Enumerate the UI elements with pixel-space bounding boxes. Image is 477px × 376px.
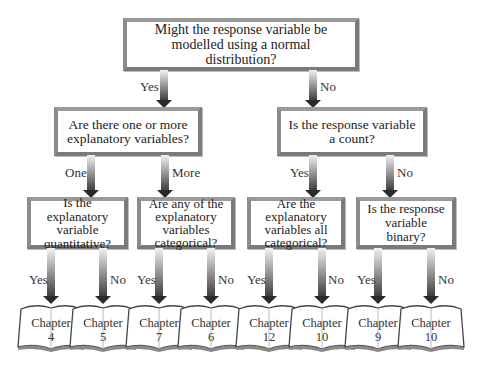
question-box-all-categorical: Are the explanatory variables all catego… (247, 197, 345, 249)
arrow-l3-0-no (99, 248, 107, 304)
root-question-box: Might the response variable be modelled … (123, 18, 359, 71)
arrow-root-no (309, 70, 317, 108)
root-question-text: Might the response variable be modelled … (145, 22, 337, 67)
question-text: Is the response variable a count? (285, 118, 419, 146)
label-l3-3-no: No (438, 273, 454, 287)
question-box-response-binary: Is the response variable binary? (356, 197, 456, 249)
arrow-one (87, 155, 95, 198)
label-count-no: No (397, 166, 413, 180)
arrow-l3-1-yes (155, 248, 163, 304)
arrow-l3-3-no (427, 248, 435, 304)
question-text: Is the explanatory variable quantitative… (35, 196, 120, 250)
chapter-book-10-b: Chapter10 (397, 303, 465, 353)
arrow-count-no (386, 155, 394, 198)
arrow-l3-0-yes (47, 248, 55, 304)
label-one: One (65, 166, 87, 180)
label-count-yes: Yes (290, 166, 309, 180)
label-l3-2-no: No (328, 273, 344, 287)
label-root-yes: Yes (140, 80, 159, 94)
arrow-l3-2-no (318, 248, 326, 304)
question-box-explanatory-quantitative: Is the explanatory variable quantitative… (27, 197, 128, 249)
question-text: Are there one or more explanatory variab… (62, 118, 194, 146)
question-box-response-count: Is the response variable a count? (277, 107, 427, 156)
arrow-more (161, 155, 169, 198)
question-text: Are the explanatory variables all catego… (255, 197, 337, 249)
label-l3-1-yes: Yes (137, 273, 156, 287)
label-l3-3-yes: Yes (357, 273, 376, 287)
question-text: Is the response variable binary? (364, 202, 448, 244)
question-box-any-categorical: Are any of the explanatory variables cat… (137, 197, 235, 249)
question-box-explanatory-count: Are there one or more explanatory variab… (54, 107, 202, 156)
question-text: Are any of the explanatory variables cat… (145, 197, 227, 249)
chapter-label: Chapter (397, 316, 465, 330)
label-root-no: No (320, 80, 336, 94)
chapter-number: 10 (397, 330, 465, 344)
label-more: More (172, 166, 200, 180)
label-l3-0-yes: Yes (29, 273, 48, 287)
arrow-l3-1-no (207, 248, 215, 304)
arrow-l3-2-yes (265, 248, 273, 304)
label-l3-1-no: No (218, 273, 234, 287)
label-l3-2-yes: Yes (247, 273, 266, 287)
arrow-root-yes (160, 70, 168, 108)
label-l3-0-no: No (110, 273, 126, 287)
arrow-count-yes (309, 155, 317, 198)
